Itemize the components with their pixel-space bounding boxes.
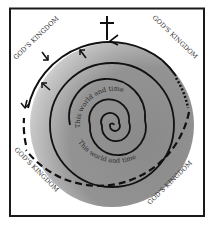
diagram-canvas: GOD'S KINGDOM GOD'S KINGDOM GOD'S KINGDO… [0,0,211,229]
